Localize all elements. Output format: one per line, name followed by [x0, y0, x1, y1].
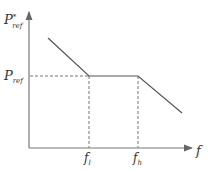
y-axis-label: P*ref: [3, 12, 24, 30]
fh-label: fh: [132, 151, 142, 167]
x-axis-label: f: [195, 143, 203, 158]
fl-label: fl: [83, 151, 91, 167]
ref-level-label: Pref: [3, 68, 24, 85]
power-frequency-diagram: P*ref Pref fl fh f: [0, 0, 213, 172]
characteristic-curve: [48, 38, 182, 113]
